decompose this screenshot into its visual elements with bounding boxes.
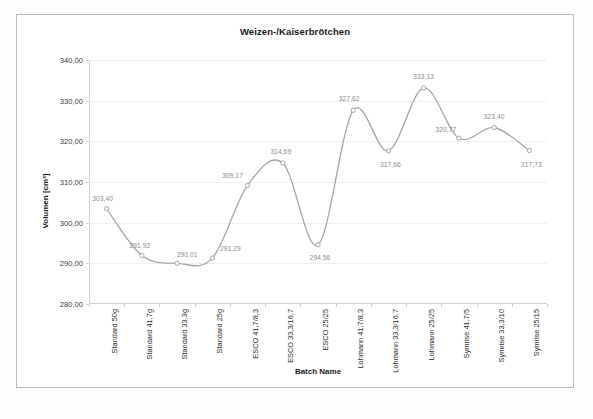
x-category-label: Symrise 41,7/5 — [462, 309, 471, 358]
volume-series-line — [89, 60, 547, 304]
data-point-label: 317,66 — [380, 160, 401, 167]
x-category-label: ESCO 33,3/16,7 — [286, 309, 295, 363]
x-tick-mark — [336, 304, 337, 307]
data-point-label: 333,13 — [413, 72, 434, 79]
x-tick-mark — [547, 304, 548, 307]
data-point-marker — [457, 136, 461, 140]
page-background: Weizen-/Kaiserbrötchen Volumen [cm³] Bat… — [0, 0, 593, 419]
data-point-marker — [492, 125, 496, 129]
data-point-marker — [316, 243, 320, 247]
x-tick-mark — [371, 304, 372, 307]
x-category-label: Standard 41,7g — [145, 309, 154, 360]
series-line — [107, 88, 530, 266]
y-tick-label: 280,00 — [60, 300, 83, 309]
x-category-label: Standard 33,3g — [180, 309, 189, 360]
data-point-marker — [105, 207, 109, 211]
data-point-marker — [422, 86, 426, 90]
plot-area: 280,00290,00300,00310,00320,00330,00340,… — [89, 60, 547, 304]
data-point-label: 291,29 — [220, 245, 241, 252]
x-tick-mark — [159, 304, 160, 307]
data-point-label: 317,73 — [521, 160, 542, 167]
x-category-label: ESCO 25/25 — [321, 309, 330, 351]
data-point-label: 327,62 — [339, 95, 360, 102]
x-category-label: Lohmann 33,3/16,7 — [391, 309, 400, 373]
y-tick-label: 290,00 — [60, 259, 83, 268]
x-category-label: ESCO 41,7/8,3 — [251, 309, 260, 359]
data-point-marker — [527, 148, 531, 152]
y-tick-label: 310,00 — [60, 178, 83, 187]
x-tick-mark — [512, 304, 513, 307]
y-tick-label: 340,00 — [60, 56, 83, 65]
data-point-label: 314,69 — [270, 147, 291, 154]
x-tick-mark — [477, 304, 478, 307]
y-tick-label: 330,00 — [60, 96, 83, 105]
data-point-marker — [140, 253, 144, 257]
data-point-label: 323,40 — [484, 112, 505, 119]
data-point-label: 320,77 — [436, 126, 457, 133]
data-point-marker — [210, 256, 214, 260]
data-point-marker — [245, 183, 249, 187]
data-point-marker — [351, 108, 355, 112]
x-category-label: Symrise 33,3/10 — [497, 309, 506, 362]
x-tick-mark — [441, 304, 442, 307]
x-tick-mark — [195, 304, 196, 307]
y-tick-label: 300,00 — [60, 218, 83, 227]
x-axis-title: Batch Name — [89, 367, 547, 376]
data-point-label: 294,56 — [310, 253, 331, 260]
x-category-label: Lohmann 41,7/8,3 — [356, 309, 365, 369]
data-point-marker — [175, 261, 179, 265]
data-point-marker — [281, 161, 285, 165]
x-tick-mark — [300, 304, 301, 307]
x-category-label: Symrise 25/15 — [532, 309, 541, 356]
x-tick-mark — [406, 304, 407, 307]
data-point-label: 303,40 — [92, 194, 113, 201]
chart-title: Weizen-/Kaiserbrötchen — [17, 26, 573, 37]
x-category-label: Standard 50g — [110, 309, 119, 353]
chart-container: Weizen-/Kaiserbrötchen Volumen [cm³] Bat… — [16, 14, 574, 388]
data-point-label: 291,92 — [129, 241, 150, 248]
x-tick-mark — [265, 304, 266, 307]
x-tick-mark — [89, 304, 90, 307]
data-point-label: 309,17 — [222, 172, 243, 179]
y-tick-label: 320,00 — [60, 137, 83, 146]
y-axis-title: Volumen [cm³] — [41, 174, 50, 229]
x-tick-mark — [124, 304, 125, 307]
x-category-label: Lohmann 25/25 — [427, 309, 436, 360]
data-point-label: 290,01 — [177, 251, 198, 258]
x-tick-mark — [230, 304, 231, 307]
data-point-marker — [386, 149, 390, 153]
x-category-label: Standard 25g — [215, 309, 224, 353]
